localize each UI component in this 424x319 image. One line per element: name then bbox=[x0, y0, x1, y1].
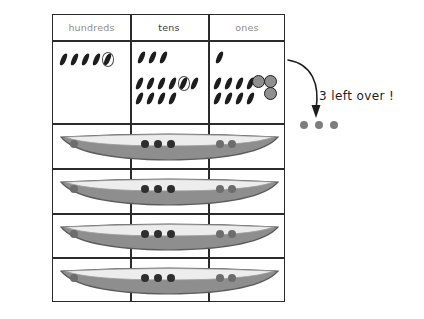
column-header-hundreds-label: hundreds bbox=[68, 22, 114, 33]
boat-dot-hundreds bbox=[70, 185, 78, 193]
boat-dot-tens bbox=[167, 185, 175, 193]
tally-group-hundreds-bottom bbox=[59, 52, 127, 67]
leftover-dot bbox=[315, 121, 323, 129]
tally-mark bbox=[135, 91, 146, 106]
boat-dot-tens bbox=[167, 140, 175, 148]
tally-mark bbox=[168, 91, 179, 106]
circled-bead bbox=[264, 87, 277, 100]
counter-row bbox=[53, 40, 284, 123]
tally-mark bbox=[146, 76, 157, 91]
tally-mark bbox=[159, 50, 170, 65]
tally-mark bbox=[224, 91, 235, 106]
leftover-dot bbox=[330, 121, 338, 129]
tally-mark bbox=[213, 91, 224, 106]
table-header-row: hundreds tens ones bbox=[53, 15, 284, 40]
column-header-hundreds: hundreds bbox=[53, 15, 130, 40]
tally-mark bbox=[81, 52, 92, 67]
tally-group-tens-bottom bbox=[135, 76, 203, 106]
column-header-tens-label: tens bbox=[158, 22, 179, 33]
tally-mark bbox=[190, 76, 201, 91]
leftover-dot bbox=[300, 121, 308, 129]
tally-mark bbox=[70, 52, 81, 67]
tally-mark-circled bbox=[179, 76, 190, 91]
boat-dot-tens bbox=[154, 230, 162, 238]
boat-dot-ones bbox=[228, 185, 236, 193]
tally-mark bbox=[235, 76, 246, 91]
boat-dot-tens bbox=[154, 274, 162, 282]
tally-mark bbox=[148, 50, 159, 65]
tally-mark bbox=[213, 76, 224, 91]
place-value-table: hundreds tens ones bbox=[52, 14, 285, 302]
tally-mark bbox=[59, 52, 70, 67]
tally-mark bbox=[146, 91, 157, 106]
boat-dot-ones bbox=[228, 140, 236, 148]
boat-dot-ones bbox=[216, 140, 224, 148]
boat-dot-tens bbox=[167, 230, 175, 238]
boat-row bbox=[53, 123, 284, 168]
leftover-annotation: 3 left over ! bbox=[286, 58, 424, 153]
counter-cell-hundreds bbox=[53, 40, 130, 123]
leftover-label: 3 left over ! bbox=[319, 89, 394, 103]
counter-cell-ones bbox=[209, 40, 286, 123]
leftover-dot-group bbox=[300, 121, 338, 129]
tally-mark bbox=[135, 76, 146, 91]
boat-row bbox=[53, 257, 284, 302]
boat-row bbox=[53, 168, 284, 213]
boat-dot-hundreds bbox=[70, 230, 78, 238]
boat-dot-ones bbox=[216, 274, 224, 282]
boat-dot-ones bbox=[228, 274, 236, 282]
tally-mark bbox=[137, 50, 148, 65]
tally-mark bbox=[157, 76, 168, 91]
boat-dot-tens bbox=[167, 274, 175, 282]
tally-mark bbox=[215, 50, 226, 65]
boat-dot-tens bbox=[141, 140, 149, 148]
column-header-tens: tens bbox=[130, 15, 208, 40]
tally-mark bbox=[224, 76, 235, 91]
boat-dot-ones bbox=[216, 185, 224, 193]
tally-mark bbox=[235, 91, 246, 106]
tally-mark bbox=[246, 91, 257, 106]
boat-dot-hundreds bbox=[70, 274, 78, 282]
tally-group-ones-top bbox=[215, 50, 255, 65]
column-header-ones: ones bbox=[208, 15, 286, 40]
tally-group-tens-top bbox=[137, 50, 197, 65]
boat-row bbox=[53, 213, 284, 258]
tally-mark-circled bbox=[103, 52, 114, 67]
worksheet-canvas: hundreds tens ones bbox=[0, 0, 424, 319]
counter-cell-tens bbox=[131, 40, 208, 123]
boat-dot-tens bbox=[141, 185, 149, 193]
tally-mark bbox=[157, 91, 168, 106]
boat-dot-ones bbox=[216, 230, 224, 238]
boat-dot-tens bbox=[141, 274, 149, 282]
boat-dot-tens bbox=[154, 185, 162, 193]
boat-dot-hundreds bbox=[70, 140, 78, 148]
boat-dot-tens bbox=[141, 230, 149, 238]
column-header-ones-label: ones bbox=[235, 22, 258, 33]
boat-dot-tens bbox=[154, 140, 162, 148]
boat-dot-ones bbox=[228, 230, 236, 238]
